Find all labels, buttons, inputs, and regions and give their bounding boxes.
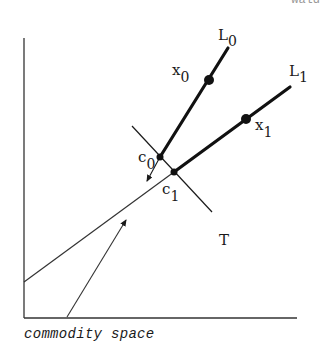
label-l1: L1	[289, 62, 308, 85]
label-c0: c0	[138, 148, 155, 172]
label-c1: c1	[162, 180, 179, 204]
label-t: T	[219, 231, 229, 249]
commodity-space-diagram: L0 L1 x0 x1 c0 c1 T	[0, 0, 326, 355]
point-c1	[171, 169, 178, 176]
label-l0: L0	[218, 26, 237, 49]
point-c0	[157, 154, 164, 161]
point-x1	[241, 114, 251, 124]
ray-l1	[174, 87, 290, 172]
label-x0: x0	[172, 61, 189, 85]
label-x1: x1	[255, 116, 272, 140]
line-c1-to-axis	[24, 172, 174, 282]
point-x0	[204, 75, 214, 85]
caption-commodity-space: commodity space	[24, 326, 155, 342]
arrow-from-x-axis	[67, 220, 126, 317]
